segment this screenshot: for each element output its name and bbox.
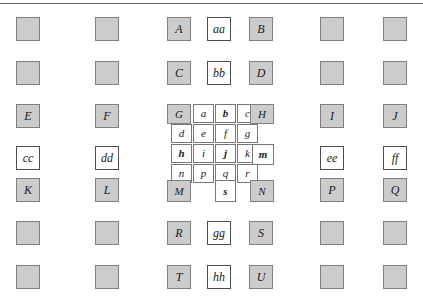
cell-label: P (328, 184, 335, 196)
cell-label: C (175, 67, 183, 79)
subgrid-cell-a[interactable]: a (193, 104, 214, 123)
grid-cell-r4c1-cc[interactable]: cc (16, 146, 40, 170)
grid-cell-r2c3-C[interactable]: C (167, 61, 191, 85)
cell-label: r (245, 168, 249, 179)
grid-cell-r4c7-ff[interactable]: ff (383, 146, 407, 170)
subgrid-cell-f[interactable]: f (215, 124, 236, 143)
subgrid-cell-H[interactable]: H (250, 104, 274, 124)
grid-cell-r1c2[interactable] (95, 17, 119, 41)
grid-cell-r5c7-Q[interactable]: Q (383, 178, 407, 202)
grid-cell-r6c5-S[interactable]: S (249, 221, 273, 245)
grid-cell-r2c7[interactable] (383, 61, 407, 85)
cell-label: gg (213, 227, 225, 239)
grid-cell-r6c1[interactable] (16, 221, 40, 245)
grid-cell-r1c5-B[interactable]: B (249, 17, 273, 41)
subgrid-cell-i[interactable]: i (193, 144, 214, 163)
cell-label: M (174, 186, 183, 197)
grid-cell-r5c2-L[interactable]: L (95, 178, 119, 202)
grid-cell-r7c3-T[interactable]: T (167, 265, 191, 289)
cell-label: hh (213, 271, 225, 283)
cell-label: bb (213, 67, 225, 79)
cell-label: h (178, 148, 184, 159)
grid-cell-r3c7-J[interactable]: J (383, 104, 407, 128)
cell-label: ee (327, 152, 338, 164)
subgrid-cell-N[interactable]: N (250, 180, 274, 202)
subgrid-cell-j[interactable]: j (215, 144, 236, 163)
cell-label: G (175, 109, 183, 120)
cell-label: a (201, 108, 207, 119)
grid-cell-r1c1[interactable] (16, 17, 40, 41)
subgrid-cell-d[interactable]: d (171, 124, 192, 143)
cell-label: F (103, 110, 110, 122)
cell-label: K (24, 184, 32, 196)
subgrid-cell-g[interactable]: g (237, 124, 258, 143)
cell-label: g (245, 128, 251, 139)
grid-cell-r7c7[interactable] (383, 265, 407, 289)
cell-label: d (179, 128, 185, 139)
grid-cell-r5c1-K[interactable]: K (16, 178, 40, 202)
cell-label: s (223, 186, 227, 197)
cell-label: b (223, 108, 229, 119)
grid-cell-r7c5-U[interactable]: U (249, 265, 273, 289)
grid-cell-r5c6-P[interactable]: P (320, 178, 344, 202)
cell-label: aa (213, 23, 225, 35)
grid-cell-r7c4-hh[interactable]: hh (207, 265, 231, 289)
subgrid-cell-M[interactable]: M (167, 180, 191, 202)
cell-label: f (224, 128, 227, 139)
grid-cell-r1c6[interactable] (320, 17, 344, 41)
grid-cell-r2c1[interactable] (16, 61, 40, 85)
cell-label: Q (391, 184, 400, 196)
cell-label: N (258, 186, 265, 197)
cell-label: i (202, 148, 205, 159)
cell-label: p (201, 168, 207, 179)
cell-label: e (201, 128, 206, 139)
grid-cell-r6c7[interactable] (383, 221, 407, 245)
cell-label: k (245, 148, 250, 159)
diagram-canvas: A aa B C bb D E F I J cc dd ee ff K L P … (0, 0, 423, 300)
cell-label: q (223, 168, 229, 179)
grid-cell-r6c4-gg[interactable]: gg (207, 221, 231, 245)
subgrid-cell-s[interactable]: s (215, 180, 236, 202)
grid-cell-r2c5-D[interactable]: D (249, 61, 273, 85)
cell-label: J (392, 110, 397, 122)
cell-label: D (257, 67, 266, 79)
grid-cell-r6c3-R[interactable]: R (167, 221, 191, 245)
grid-cell-r6c2[interactable] (95, 221, 119, 245)
cell-label: U (257, 271, 266, 283)
grid-cell-r1c3-A[interactable]: A (167, 17, 191, 41)
cell-label: E (24, 110, 31, 122)
grid-cell-r7c1[interactable] (16, 265, 40, 289)
cell-label: R (175, 227, 182, 239)
grid-cell-r4c6-ee[interactable]: ee (320, 146, 344, 170)
grid-cell-r7c6[interactable] (320, 265, 344, 289)
cell-label: T (176, 271, 183, 283)
cell-label: cc (23, 152, 34, 164)
cell-label: ff (392, 152, 399, 164)
cell-label: A (175, 23, 182, 35)
grid-cell-r3c1-E[interactable]: E (16, 104, 40, 128)
subgrid-cell-G[interactable]: G (167, 104, 191, 124)
cell-label: n (179, 168, 185, 179)
cell-label: H (258, 109, 266, 120)
cell-label: L (104, 184, 111, 196)
grid-cell-r1c4-aa[interactable]: aa (207, 17, 231, 41)
cell-label: dd (101, 152, 113, 164)
subgrid-cell-m[interactable]: m (252, 144, 274, 165)
cell-label: j (224, 148, 227, 159)
cell-label: S (258, 227, 264, 239)
grid-cell-r4c2-dd[interactable]: dd (95, 146, 119, 170)
cell-label: m (259, 149, 268, 160)
subgrid-cell-p[interactable]: p (193, 164, 214, 183)
subgrid-cell-e[interactable]: e (193, 124, 214, 143)
subgrid-cell-b[interactable]: b (215, 104, 236, 123)
subgrid-cell-h[interactable]: h (171, 144, 192, 163)
grid-cell-r3c2-F[interactable]: F (95, 104, 119, 128)
grid-cell-r1c7[interactable] (383, 17, 407, 41)
cell-label: I (330, 110, 334, 122)
grid-cell-r3c6-I[interactable]: I (320, 104, 344, 128)
grid-cell-r2c2[interactable] (95, 61, 119, 85)
grid-cell-r6c6[interactable] (320, 221, 344, 245)
grid-cell-r2c4-bb[interactable]: bb (207, 61, 231, 85)
grid-cell-r7c2[interactable] (95, 265, 119, 289)
grid-cell-r2c6[interactable] (320, 61, 344, 85)
